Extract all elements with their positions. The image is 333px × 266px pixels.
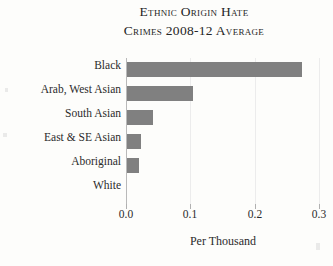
xtick-label-0.0: 0.0 — [106, 208, 146, 220]
bar-black — [127, 62, 302, 77]
chart-title-line-2: Crimes 2008-12 Average — [60, 21, 328, 40]
y-axis-line — [126, 58, 127, 204]
y-axis-label-black: Black — [1, 58, 121, 73]
plot-area — [126, 58, 320, 204]
chart-figure: Ethnic Origin Hate Crimes 2008-12 Averag… — [0, 0, 333, 266]
y-axis-category-labels: Black Arab, West Asian South Asian East … — [0, 58, 121, 204]
xtick-label-0.2: 0.2 — [235, 208, 275, 220]
gridline-0.3 — [319, 58, 320, 204]
gridline-0.1 — [190, 58, 191, 204]
chart-title: Ethnic Origin Hate Crimes 2008-12 Averag… — [60, 2, 328, 40]
bar-fill — [127, 158, 139, 173]
bar-fill — [127, 134, 141, 149]
xtick-label-0.1: 0.1 — [170, 208, 210, 220]
scan-artifact — [3, 133, 7, 137]
scan-artifact — [316, 243, 320, 250]
chart-title-line-1: Ethnic Origin Hate — [60, 2, 328, 21]
y-axis-label-arab-west-asian: Arab, West Asian — [1, 82, 121, 97]
bar-arab-west-asian — [127, 86, 193, 101]
bar-east-se-asian — [127, 134, 141, 149]
x-axis-title: Per Thousand — [126, 234, 320, 249]
bar-fill — [127, 86, 193, 101]
y-axis-label-aboriginal: Aboriginal — [1, 154, 121, 169]
bar-fill — [127, 62, 302, 77]
bar-fill — [127, 110, 153, 125]
xtick-label-0.3: 0.3 — [299, 208, 333, 220]
bar-aboriginal — [127, 158, 139, 173]
y-axis-label-white: White — [1, 178, 121, 193]
y-axis-label-east-se-asian: East & SE Asian — [1, 130, 121, 145]
scan-artifact — [5, 88, 8, 92]
gridline-0.2 — [255, 58, 256, 204]
bar-south-asian — [127, 110, 153, 125]
y-axis-label-south-asian: South Asian — [1, 106, 121, 121]
